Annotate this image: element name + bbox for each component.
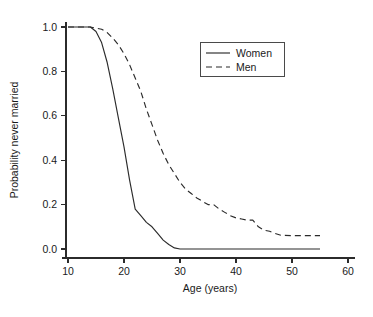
- y-axis-ticks: 0.00.20.40.60.81.0: [42, 21, 66, 255]
- x-tick-label: 30: [174, 265, 186, 277]
- y-tick-label: 0.8: [42, 65, 57, 77]
- y-tick-label: 0.6: [42, 109, 57, 121]
- y-tick-label: 0.2: [42, 198, 57, 210]
- x-axis-ticks: 102030405060: [62, 258, 354, 277]
- x-axis-title: Age (years): [183, 282, 237, 294]
- chart-figure: 0.00.20.40.60.81.0 102030405060 Probabil…: [0, 0, 373, 317]
- chart-legend: WomenMen: [200, 42, 284, 76]
- y-tick-label: 0.4: [42, 154, 57, 166]
- y-tick-label: 1.0: [42, 21, 57, 33]
- x-tick-label: 50: [286, 265, 298, 277]
- probability-never-married-line-chart: 0.00.20.40.60.81.0 102030405060 Probabil…: [0, 0, 373, 317]
- x-tick-label: 20: [118, 265, 130, 277]
- x-tick-label: 40: [230, 265, 242, 277]
- y-tick-label: 0.0: [42, 243, 57, 255]
- legend-label-men: Men: [236, 61, 257, 73]
- legend-label-women: Women: [236, 47, 272, 59]
- x-tick-label: 10: [62, 265, 74, 277]
- y-axis-title: Probability never married: [8, 81, 20, 198]
- x-tick-label: 60: [342, 265, 354, 277]
